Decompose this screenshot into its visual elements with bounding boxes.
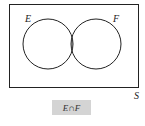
universe-label: S: [134, 91, 139, 101]
circle-f: [71, 19, 121, 69]
caption-text: E∩F: [63, 103, 81, 113]
circle-e: [23, 19, 73, 69]
set-label-e: E: [25, 14, 31, 24]
caption-box: E∩F: [52, 100, 91, 115]
set-label-f: F: [113, 14, 119, 24]
